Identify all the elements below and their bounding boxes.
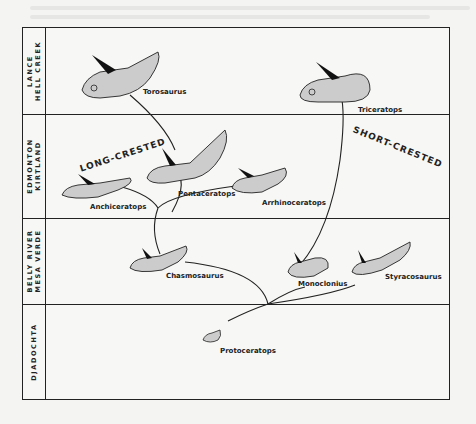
arrhinoceratops-skull-icon [232, 168, 286, 193]
triceratops-skull-icon [300, 62, 370, 102]
taxon-triceratops: Triceratops [358, 106, 402, 114]
taxon-protoceratops: Protoceratops [220, 347, 276, 355]
taxon-pentaceratops: Pentaceratops [178, 190, 235, 198]
protoceratops-skull-icon [203, 330, 221, 342]
monoclonius-skull-icon [288, 252, 328, 277]
taxon-torosaurus: Torosaurus [143, 88, 186, 96]
anchiceratops-skull-icon [62, 174, 131, 198]
taxon-monoclonius: Monoclonius [298, 280, 347, 288]
taxon-styracosaurus: Styracosaurus [385, 273, 442, 281]
taxon-anchiceratops: Anchiceratops [90, 203, 146, 211]
taxon-arrhinoceratops: Arrhinoceratops [262, 199, 326, 207]
taxon-chasmosaurus: Chasmosaurus [166, 272, 224, 280]
styracosaurus-skull-icon [352, 242, 410, 275]
lineage-lines [0, 0, 476, 424]
